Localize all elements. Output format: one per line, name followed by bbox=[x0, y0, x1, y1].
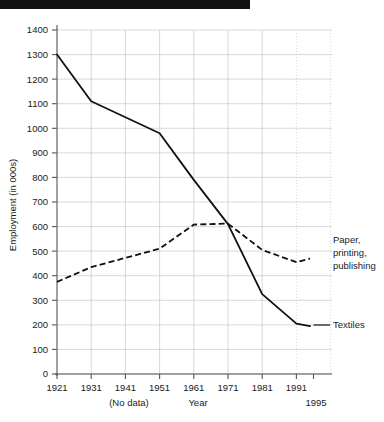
x-tick-label: 1961 bbox=[183, 382, 204, 393]
y-tick-label: 900 bbox=[32, 147, 48, 158]
series-label-paper-line-2: printing, bbox=[333, 247, 367, 258]
x-tick-label: 1971 bbox=[217, 382, 238, 393]
series-label-paper-line-1: Paper, bbox=[333, 234, 360, 245]
y-tick-label: 100 bbox=[32, 344, 48, 355]
x-tick-label: 1941 bbox=[115, 382, 136, 393]
series-label-paper-line-3: publishing bbox=[333, 260, 376, 271]
y-tick-label: 200 bbox=[32, 319, 48, 330]
horizontal-gridlines bbox=[57, 30, 332, 374]
series-line-paper-printing-publishing bbox=[57, 224, 310, 282]
y-tick-label: 1200 bbox=[27, 74, 48, 85]
y-tick-label: 0 bbox=[43, 368, 48, 379]
y-tick-label: 800 bbox=[32, 172, 48, 183]
y-axis-title: Employment (in 000s) bbox=[7, 159, 18, 251]
y-tick-label: 600 bbox=[32, 221, 48, 232]
y-tick-label: 1100 bbox=[28, 98, 48, 109]
y-tick-label: 700 bbox=[32, 196, 48, 207]
x-axis-title: Year bbox=[188, 397, 207, 408]
y-tick-label: 1000 bbox=[27, 123, 48, 134]
y-tick-label: 300 bbox=[32, 295, 48, 306]
x-tick-label: 1981 bbox=[252, 382, 273, 393]
y-tick-label: 400 bbox=[32, 270, 48, 281]
y-tick-label: 500 bbox=[32, 246, 48, 257]
series-line-textiles bbox=[57, 55, 310, 327]
series-label-paper: Paper, printing, publishing bbox=[333, 234, 376, 271]
employment-line-chart: 0 100 200 300 400 500 600 700 800 900 10… bbox=[0, 0, 384, 422]
x-tick-label-1995: 1995 bbox=[305, 397, 326, 408]
y-tick-labels: 0 100 200 300 400 500 600 700 800 900 10… bbox=[27, 24, 48, 379]
chart-canvas: 0 100 200 300 400 500 600 700 800 900 10… bbox=[0, 0, 384, 422]
x-tick-label: 1921 bbox=[46, 382, 67, 393]
x-tick-label: 1931 bbox=[81, 382, 102, 393]
no-data-note: (No data) bbox=[109, 397, 149, 408]
y-tick-label: 1300 bbox=[27, 49, 48, 60]
x-tickmarks bbox=[57, 374, 314, 379]
x-tick-labels: 1921 1931 1941 1951 1961 1971 1981 1991 … bbox=[46, 382, 326, 408]
series-label-textiles: Textiles bbox=[333, 319, 365, 330]
x-tick-label: 1991 bbox=[286, 382, 307, 393]
y-tick-label: 1400 bbox=[27, 24, 48, 35]
x-tick-label: 1951 bbox=[149, 382, 170, 393]
y-tickmarks bbox=[52, 30, 57, 374]
